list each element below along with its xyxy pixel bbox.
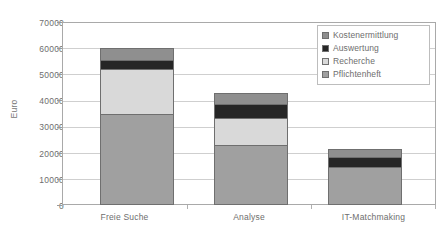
- bar-segment-recherche[interactable]: [100, 69, 174, 113]
- y-tick-label: 0: [12, 201, 64, 211]
- bar-stack: [214, 93, 288, 205]
- bar-segment-kostenermittlung[interactable]: [214, 93, 288, 105]
- x-tick-label-analyse: Analyse: [187, 212, 311, 222]
- y-tick-label: 10000: [12, 175, 64, 185]
- x-tick-mark: [311, 205, 312, 209]
- chart-legend: Kostenermittlung Auswertung Recherche Pf…: [317, 25, 430, 85]
- bar-segment-auswertung[interactable]: [328, 157, 402, 168]
- x-tick-label-freie-suche: Freie Suche: [62, 212, 187, 222]
- legend-item-recherche[interactable]: Recherche: [322, 55, 425, 67]
- bar-segment-kostenermittlung[interactable]: [100, 48, 174, 60]
- x-tick-mark: [62, 205, 63, 209]
- bar-segment-pflichtenheft[interactable]: [214, 145, 288, 205]
- x-tick-mark: [187, 205, 188, 209]
- legend-item-auswertung[interactable]: Auswertung: [322, 42, 425, 54]
- bar-stack: [100, 48, 174, 205]
- legend-swatch-icon: [322, 58, 329, 65]
- bar-segment-pflichtenheft[interactable]: [100, 114, 174, 206]
- bar-segment-kostenermittlung[interactable]: [328, 149, 402, 157]
- bar-segment-auswertung[interactable]: [214, 104, 288, 117]
- legend-item-pflichtenheft[interactable]: Pflichtenheft: [322, 68, 425, 80]
- bar-group-analyse[interactable]: [214, 22, 288, 205]
- bar-stack: [328, 149, 402, 205]
- y-tick-label: 60000: [12, 44, 64, 54]
- y-tick-label: 20000: [12, 149, 64, 159]
- stacked-bar-chart: Euro 70000 60000 50000 40000 30000 20000…: [0, 0, 446, 239]
- legend-swatch-icon: [322, 45, 329, 52]
- legend-swatch-icon: [322, 71, 329, 78]
- legend-label: Auswertung: [333, 43, 379, 53]
- legend-label: Kostenermittlung: [333, 30, 398, 40]
- bar-segment-recherche[interactable]: [214, 118, 288, 145]
- legend-swatch-icon: [322, 32, 329, 39]
- legend-label: Pflichtenheft: [333, 69, 381, 79]
- bar-segment-pflichtenheft[interactable]: [328, 167, 402, 205]
- x-tick-mark: [435, 205, 436, 209]
- bar-segment-auswertung[interactable]: [100, 60, 174, 69]
- bar-group-freie-suche[interactable]: [100, 22, 174, 205]
- y-tick-label: 50000: [12, 70, 64, 80]
- legend-label: Recherche: [333, 56, 375, 66]
- y-tick-label: 70000: [12, 18, 64, 28]
- legend-item-kostenermittlung[interactable]: Kostenermittlung: [322, 29, 425, 41]
- x-axis-labels: Freie Suche Analyse IT-Matchmaking: [62, 212, 436, 232]
- y-tick-label: 40000: [12, 96, 64, 106]
- x-tick-label-it-matchmaking: IT-Matchmaking: [311, 212, 436, 222]
